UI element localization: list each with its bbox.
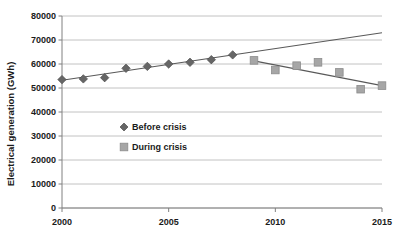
- x-tick-label-2000: 2000: [52, 217, 72, 227]
- legend-label: During crisis: [132, 142, 187, 152]
- electrical-generation-scatter-chart: 0100002000030000400005000060000700008000…: [0, 0, 394, 247]
- y-tick-label-60000: 60000: [31, 59, 56, 69]
- data-point-marker: [293, 62, 301, 70]
- y-tick-label-50000: 50000: [31, 83, 56, 93]
- x-tick-label-2005: 2005: [159, 217, 179, 227]
- data-point-marker: [336, 69, 344, 77]
- y-tick-label-0: 0: [51, 203, 56, 213]
- y-tick-label-70000: 70000: [31, 35, 56, 45]
- legend-label: Before crisis: [132, 122, 187, 132]
- chart-container: 0100002000030000400005000060000700008000…: [0, 0, 394, 247]
- y-axis-title: Electrical generation (GWh): [5, 62, 16, 187]
- y-tick-label-20000: 20000: [31, 155, 56, 165]
- data-point-marker: [272, 66, 280, 74]
- y-tick-label-30000: 30000: [31, 131, 56, 141]
- data-point-marker: [378, 82, 386, 90]
- chart-background: [0, 0, 394, 247]
- y-axis-tick-labels: 0100002000030000400005000060000700008000…: [31, 11, 56, 213]
- y-tick-label-40000: 40000: [31, 107, 56, 117]
- data-point-marker: [357, 85, 365, 93]
- x-tick-label-2015: 2015: [372, 217, 392, 227]
- data-point-marker: [250, 57, 258, 65]
- legend-square-icon: [120, 143, 128, 151]
- y-tick-label-80000: 80000: [31, 11, 56, 21]
- y-tick-label-10000: 10000: [31, 179, 56, 189]
- x-tick-label-2010: 2010: [265, 217, 285, 227]
- data-point-marker: [314, 59, 322, 67]
